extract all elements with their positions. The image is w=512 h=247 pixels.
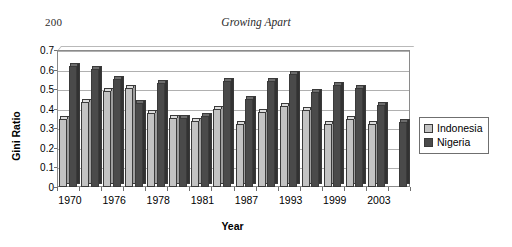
bar-body <box>368 124 376 187</box>
bar-body <box>258 112 266 187</box>
x-axis-tick-label: 1999 <box>315 194 355 206</box>
bar-indonesia[interactable] <box>213 109 221 187</box>
bar-group <box>278 50 300 187</box>
bar-top-cap <box>136 100 144 103</box>
bar-indonesia[interactable] <box>346 119 354 187</box>
bar-body <box>377 105 385 187</box>
bar-group <box>322 50 344 187</box>
bar-body <box>201 116 209 187</box>
bar-top-cap <box>268 78 276 81</box>
x-axis-tick-label: 1978 <box>138 194 178 206</box>
bar-top-cap <box>281 103 289 106</box>
bar-group <box>256 50 278 187</box>
bar-top-cap <box>290 71 298 74</box>
bar-nigeria[interactable] <box>179 118 187 187</box>
bar-indonesia[interactable] <box>280 106 288 187</box>
chart-legend: IndonesiaNigeria <box>419 117 489 154</box>
bar-body <box>302 110 310 187</box>
bar-body <box>103 91 111 187</box>
legend-swatch-indonesia <box>424 124 433 133</box>
bar-body <box>289 74 297 187</box>
bar-top-cap <box>303 107 311 110</box>
bar-body <box>191 121 199 187</box>
bar-top-cap <box>246 96 254 99</box>
bar-top-cap <box>325 121 333 124</box>
x-axis-tick-label: 1976 <box>94 194 134 206</box>
bar-nigeria[interactable] <box>223 81 231 187</box>
bar-nigeria[interactable] <box>91 69 99 187</box>
bar-nigeria[interactable] <box>113 79 121 187</box>
bar-top-cap <box>114 76 122 79</box>
bar-indonesia[interactable] <box>147 113 155 187</box>
bar-side-face <box>407 119 410 184</box>
bar-group <box>344 50 366 187</box>
legend-item[interactable]: Nigeria <box>424 135 483 149</box>
bar-indonesia[interactable] <box>302 110 310 187</box>
y-axis-tick-label: 0.2 <box>22 142 54 153</box>
bar-indonesia[interactable] <box>368 124 376 187</box>
bar-body <box>245 99 253 187</box>
bar-nigeria[interactable] <box>245 99 253 187</box>
bar-body <box>59 119 67 187</box>
x-axis-tick-label: 2003 <box>359 194 399 206</box>
y-axis-tick-label: 0.1 <box>22 162 54 173</box>
bar-nigeria[interactable] <box>311 92 319 187</box>
x-axis-tick-mark <box>410 187 411 191</box>
x-axis-tick-label: 1987 <box>227 194 267 206</box>
bar-indonesia[interactable] <box>59 119 67 187</box>
bar-body <box>267 81 275 187</box>
bar-body <box>236 124 244 187</box>
bar-body <box>223 81 231 187</box>
bar-nigeria[interactable] <box>289 74 297 187</box>
bar-body <box>179 118 187 187</box>
bar-group <box>145 50 167 187</box>
bar-nigeria[interactable] <box>333 85 341 187</box>
bar-nigeria[interactable] <box>355 88 363 187</box>
bar-body <box>91 69 99 187</box>
bar-top-cap <box>192 118 200 121</box>
bar-group <box>234 50 256 187</box>
bar-indonesia[interactable] <box>324 124 332 187</box>
y-axis-tick-label: 0.7 <box>22 45 54 56</box>
x-axis-tick-mark <box>344 187 345 191</box>
bar-nigeria[interactable] <box>267 81 275 187</box>
bar-top-cap <box>158 80 166 83</box>
bar-nigeria[interactable] <box>135 103 143 187</box>
bar-nigeria[interactable] <box>377 105 385 187</box>
x-axis-tick-mark <box>101 187 102 191</box>
bar-top-cap <box>378 102 386 105</box>
x-axis-tick-mark <box>167 187 168 191</box>
bar-indonesia[interactable] <box>236 124 244 187</box>
bar-indonesia[interactable] <box>258 112 266 187</box>
bar-top-cap <box>356 85 364 88</box>
legend-item[interactable]: Indonesia <box>424 121 483 135</box>
page-running-header: 200 Growing Apart <box>0 16 512 34</box>
bar-nigeria[interactable] <box>157 83 165 187</box>
bar-top-cap <box>237 121 245 124</box>
bar-body <box>355 88 363 187</box>
bar-nigeria[interactable] <box>201 116 209 187</box>
bar-top-cap <box>82 99 90 102</box>
x-axis-tick-mark <box>300 187 301 191</box>
bar-indonesia[interactable] <box>191 121 199 187</box>
bar-top-cap <box>369 121 377 124</box>
bar-nigeria[interactable] <box>399 122 407 187</box>
bar-body <box>399 122 407 187</box>
bar-top-cap <box>148 110 156 113</box>
bar-nigeria[interactable] <box>69 66 77 187</box>
bar-body <box>324 124 332 187</box>
running-head-title: Growing Apart <box>0 16 512 28</box>
bar-top-cap <box>214 106 222 109</box>
bar-indonesia[interactable] <box>81 102 89 187</box>
bar-top-cap <box>334 82 342 85</box>
bar-top-cap <box>170 115 178 118</box>
bar-body <box>280 106 288 187</box>
bar-indonesia[interactable] <box>169 118 177 187</box>
bar-top-cap <box>259 109 267 112</box>
bar-top-cap <box>92 66 100 69</box>
bar-indonesia[interactable] <box>103 91 111 187</box>
x-axis-tick-mark <box>388 187 389 191</box>
bar-group <box>300 50 322 187</box>
bar-indonesia[interactable] <box>125 88 133 187</box>
bar-group <box>366 50 388 187</box>
